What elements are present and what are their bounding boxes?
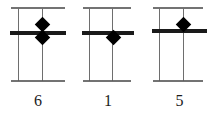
lower-cap-line [153,80,203,82]
upper-cap-line [83,7,131,9]
lower-cap-line [83,80,131,82]
left-rail-line [159,8,160,81]
left-rail-line [89,8,90,81]
lower-cap-line [11,80,65,82]
mean-bar [152,29,207,33]
upper-cap-line [11,7,65,9]
left-rail-line [18,8,19,81]
upper-cap-line [153,7,203,9]
x-tick-label-group-6: 6 [10,91,66,111]
means-diamond-plot: 6 1 5 [0,0,215,117]
x-tick-label-group-5: 5 [152,91,207,111]
x-tick-label-group-1: 1 [82,91,134,111]
